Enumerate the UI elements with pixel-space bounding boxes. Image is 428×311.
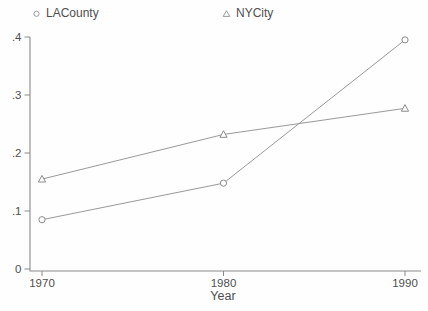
x-tick-label: 1970 <box>29 277 55 289</box>
plot-area: 0.1.2.3.4197019801990 <box>0 0 428 311</box>
axis-lines <box>30 37 421 271</box>
y-tick-label: .2 <box>12 147 22 159</box>
data-point-lacounty <box>402 37 408 43</box>
y-tick-label: .3 <box>12 89 22 101</box>
x-axis-title: Year <box>210 289 235 303</box>
data-point-lacounty <box>39 217 45 223</box>
line-chart-figure: LACounty NYCity 0.1.2.3.4197019801990 Ye… <box>0 0 428 311</box>
data-point-lacounty <box>220 180 226 186</box>
y-tick-label: .4 <box>12 31 22 43</box>
x-tick-label: 1990 <box>392 277 418 289</box>
data-point-nycity <box>401 105 408 112</box>
x-tick-label: 1980 <box>211 277 237 289</box>
y-tick-label: .1 <box>12 205 22 217</box>
y-tick-label: 0 <box>15 263 21 275</box>
series-line-nycity <box>42 108 405 179</box>
